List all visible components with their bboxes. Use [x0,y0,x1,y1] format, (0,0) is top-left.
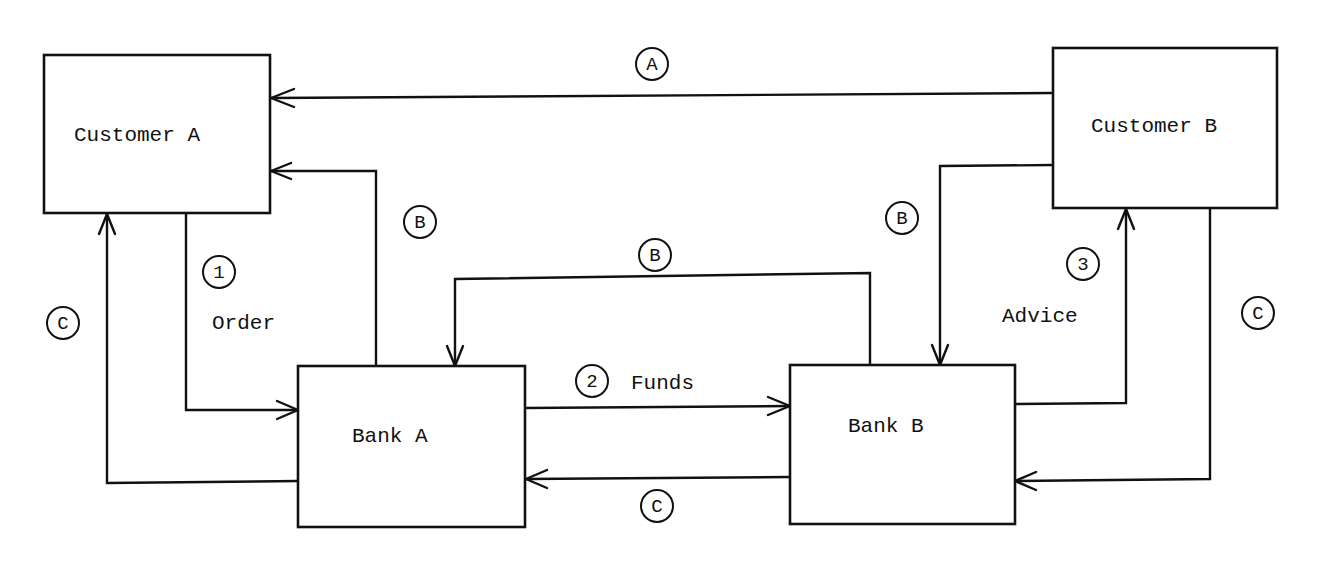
svg-text:C: C [57,313,68,335]
svg-text:C: C [1252,303,1263,325]
svg-text:B: B [649,245,660,267]
edge-c-bank-a-to-customer-a [99,214,298,483]
badge-c-bottom: C [641,490,673,522]
badge-step-1: 1 [203,256,235,288]
node-label: Customer B [1091,115,1217,138]
svg-text:1: 1 [213,262,224,284]
node-bank-a: Bank A [298,366,525,527]
badge-step-3: 3 [1067,248,1099,280]
svg-text:2: 2 [586,371,597,393]
edge-label-order: Order [212,312,275,335]
payment-flow-diagram: Customer A Customer B Bank A Bank B Orde… [0,0,1330,566]
edge-c-bank-b-to-bank-a [526,470,790,488]
edge-2-funds-bank-a-to-bank-b [525,397,790,415]
edge-c-customer-b-to-bank-b [1015,208,1210,490]
edge-label-funds: Funds [631,372,694,395]
node-label: Bank B [848,415,924,438]
badge-c-left: C [47,307,79,339]
badge-b-left: B [404,206,436,238]
edge-b-bank-b-to-bank-a [447,273,870,366]
node-customer-a: Customer A [44,55,270,213]
edge-b-bank-a-to-customer-a [271,163,376,366]
badge-b-right: B [886,202,918,234]
svg-text:B: B [414,212,425,234]
node-label: Customer A [74,124,200,147]
badge-b-middle: B [639,239,671,271]
badge-c-right: C [1242,297,1274,329]
edge-label-advice: Advice [1002,305,1078,328]
svg-text:B: B [896,208,907,230]
svg-text:A: A [646,54,658,76]
badge-a-top: A [636,48,668,80]
svg-text:3: 3 [1077,254,1088,276]
svg-text:C: C [651,496,662,518]
edge-a-customer-b-to-customer-a [271,89,1053,107]
badge-step-2: 2 [576,365,608,397]
node-bank-b: Bank B [790,365,1015,524]
node-label: Bank A [352,425,428,448]
edge-b-customer-b-to-bank-b [932,165,1053,365]
node-customer-b: Customer B [1053,48,1277,208]
